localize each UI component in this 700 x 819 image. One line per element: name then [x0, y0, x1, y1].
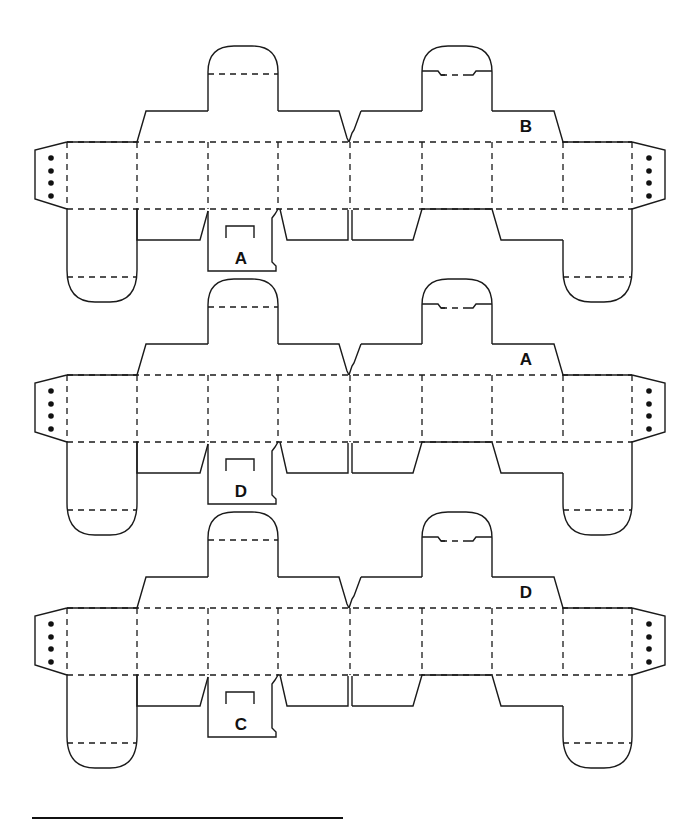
box-net-3: C D: [35, 512, 665, 768]
top-flap-label: D: [520, 583, 532, 602]
top-flap-label: A: [520, 350, 532, 369]
box-net-1: A B: [35, 46, 665, 302]
bottom-tab-label: A: [235, 249, 247, 268]
bottom-tab-label: C: [235, 715, 247, 734]
box-net-2: D A: [35, 279, 665, 535]
bottom-tab-label: D: [235, 482, 247, 501]
top-flap-label: B: [520, 117, 532, 136]
box-net-diagram: A B D A C D: [0, 0, 700, 819]
